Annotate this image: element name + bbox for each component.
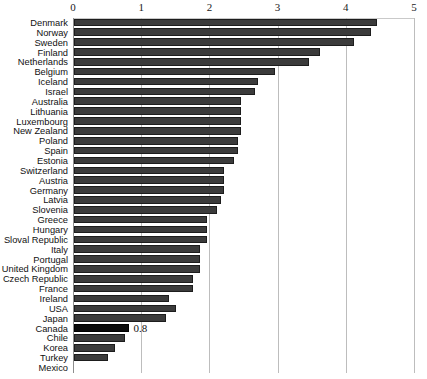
category-label: Switzerland (20, 166, 68, 176)
bar-row: Finland (73, 48, 414, 58)
bar (74, 97, 241, 105)
x-tick-label: 5 (411, 1, 417, 13)
bar-row: United Kingdom (73, 265, 414, 275)
category-label: USA (49, 304, 68, 314)
bar (74, 48, 320, 56)
bar (74, 157, 234, 165)
bar (74, 107, 241, 115)
category-label: Belgium (34, 67, 68, 77)
bar (74, 78, 258, 86)
bar-row: Ireland (73, 294, 414, 304)
bar-row: Sloval Republic (73, 235, 414, 245)
x-tick-label: 0 (70, 1, 76, 13)
x-tick-label: 1 (138, 1, 144, 13)
bar-chart: 012345 DenmarkNorwaySwedenFinlandNetherl… (0, 0, 427, 379)
bar-row: Latvia (73, 196, 414, 206)
bar-row: Norway (73, 28, 414, 38)
x-tick-label: 4 (343, 1, 349, 13)
category-label: Israel (45, 87, 68, 97)
bar (74, 236, 207, 244)
bar-row: France (73, 284, 414, 294)
bar-row: Luxembourg (73, 117, 414, 127)
category-label: Sweden (34, 37, 68, 47)
bar (74, 334, 125, 342)
bar (74, 206, 217, 214)
category-label: Sloval Republic (4, 235, 68, 245)
bar (74, 58, 309, 66)
bar (74, 88, 255, 96)
category-label: Ireland (40, 294, 68, 304)
bar-row: Germany (73, 186, 414, 196)
bar (74, 186, 224, 194)
category-label: Greece (38, 215, 69, 225)
bar-row: Israel (73, 87, 414, 97)
bar-row: Belgium (73, 67, 414, 77)
category-label: Turkey (40, 353, 68, 363)
bar (74, 176, 224, 184)
x-tick-label: 2 (207, 1, 213, 13)
bar-row: Chile (73, 334, 414, 344)
x-tick-label: 3 (275, 1, 281, 13)
plot-area: DenmarkNorwaySwedenFinlandNetherlandsBel… (73, 18, 414, 373)
bar-row: Czech Republic (73, 274, 414, 284)
category-label: New Zealand (13, 126, 68, 136)
category-label: Portugal (33, 254, 68, 264)
category-label: Estonia (37, 156, 68, 166)
bar-row: Denmark (73, 18, 414, 28)
bar-value-label: 0.8 (134, 322, 148, 334)
bar-row: Portugal (73, 255, 414, 265)
category-label: Poland (39, 136, 68, 146)
category-label: Netherlands (18, 57, 68, 67)
bar-row: Hungary (73, 225, 414, 235)
category-label: Australia (32, 97, 68, 107)
category-label: Czech Republic (3, 274, 68, 284)
bar (74, 68, 275, 76)
bar (74, 147, 238, 155)
category-label: United Kingdom (2, 264, 68, 274)
bar-row: Slovenia (73, 205, 414, 215)
bar-row: Netherlands (73, 57, 414, 67)
category-label: Austria (39, 175, 68, 185)
category-label: Chile (47, 333, 68, 343)
category-label: Slovenia (32, 205, 68, 215)
bar (74, 305, 176, 313)
bar-row: Iceland (73, 77, 414, 87)
bar-row: Australia (73, 97, 414, 107)
bar (74, 314, 166, 322)
category-label: Norway (36, 28, 68, 38)
bar (74, 295, 169, 303)
bar (74, 354, 108, 362)
bar-row: Sweden (73, 38, 414, 48)
bar (74, 285, 193, 293)
bar-row: Austria (73, 176, 414, 186)
bar-row: Mexico (73, 363, 414, 373)
bar-row: Turkey (73, 353, 414, 363)
category-label: Korea (43, 343, 68, 353)
bar (74, 38, 354, 46)
category-label: Mexico (39, 363, 68, 373)
bar (74, 255, 200, 263)
bar-row: USA (73, 304, 414, 314)
category-label: Japan (43, 314, 68, 324)
bar (74, 196, 221, 204)
bar (74, 324, 129, 332)
category-label: Hungary (33, 225, 68, 235)
bar (74, 216, 207, 224)
bar-row: Italy (73, 245, 414, 255)
bar (74, 265, 200, 273)
bar (74, 127, 241, 135)
category-label: Denmark (30, 18, 68, 28)
category-label: Latvia (43, 195, 68, 205)
bar (74, 344, 115, 352)
bar (74, 245, 200, 253)
category-label: Lithuania (30, 106, 68, 116)
bar-row: Greece (73, 215, 414, 225)
bar-row: Lithuania (73, 107, 414, 117)
category-label: Germany (30, 185, 68, 195)
category-label: Canada (35, 323, 68, 333)
gridline-5 (414, 18, 415, 373)
category-label: Iceland (38, 77, 68, 87)
bar-row: New Zealand (73, 126, 414, 136)
category-label: Italy (51, 245, 68, 255)
bar (74, 137, 238, 145)
